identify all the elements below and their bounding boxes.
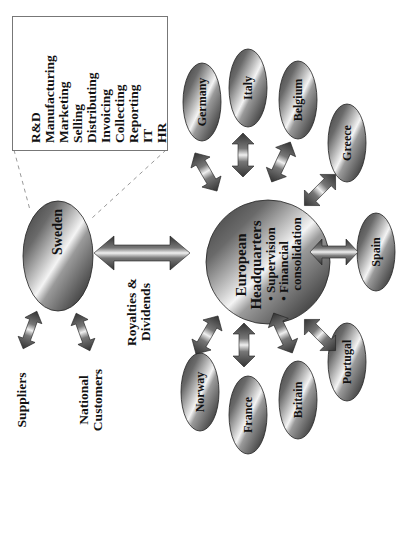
suppliers-label: Suppliers [15, 373, 29, 428]
sweden-label: Sweden [51, 209, 65, 255]
belgium-arrow [262, 137, 301, 186]
belgium-label: Belgium [292, 79, 304, 122]
royalties-dividends-label: Royalties & Dividends [125, 278, 152, 346]
norway-arrow [186, 310, 227, 359]
diagram-canvas: R&D Manufacturing Marketing Selling Dist… [0, 0, 402, 547]
functions-list: R&D Manufacturing Marketing Selling Dist… [12, 16, 166, 149]
france-label: France [242, 397, 254, 433]
norway-label: Norway [194, 372, 206, 413]
italy-arrow [232, 133, 254, 177]
france-arrow [233, 323, 255, 367]
britain-label: Britain [292, 382, 304, 419]
national-customers-arrow [68, 310, 99, 354]
spain-label: Spain [370, 237, 382, 266]
greece-label: Greece [341, 125, 353, 161]
suppliers-arrow [15, 308, 46, 352]
national-customers-label: National Customers [77, 369, 104, 431]
portugal-label: Portugal [341, 340, 353, 385]
function-item: HR [154, 123, 170, 143]
germany-label: Germany [196, 78, 208, 127]
italy-label: Italy [242, 76, 254, 100]
dashed-connector-left [14, 150, 30, 210]
royalties-arrow [94, 236, 190, 270]
dashed-connector-right [92, 150, 166, 218]
germany-arrow [185, 147, 226, 196]
headquarters-label: European Headquarters • Supervision • Fi… [234, 217, 303, 313]
